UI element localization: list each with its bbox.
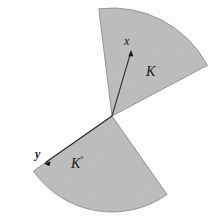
point-x-label: x (124, 35, 129, 47)
point-y-label: y (35, 148, 40, 160)
geometry-figure: x K y K° (0, 0, 209, 222)
polar-cone-shape (33, 116, 167, 212)
polar-cone-texture (33, 116, 167, 212)
degree-symbol-icon: ° (80, 154, 84, 164)
polar-cone-label-base: K (71, 156, 80, 171)
cone-K-texture (99, 8, 208, 116)
cone-K-shape (99, 8, 208, 116)
figure-canvas (0, 0, 209, 222)
cone-K-label: K (146, 65, 155, 79)
polar-cone-label: K° (71, 155, 84, 171)
